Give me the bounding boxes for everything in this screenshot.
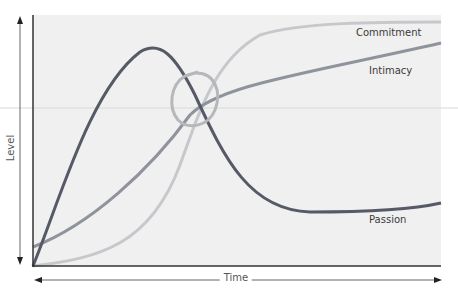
- x-axis-label: Time: [220, 272, 252, 283]
- intimacy-label: Intimacy: [369, 65, 412, 76]
- arrow-down-icon: [17, 257, 23, 265]
- chart-canvas: [0, 0, 458, 301]
- passion-label: Passion: [369, 214, 406, 225]
- y-axis-label: Level: [5, 133, 16, 163]
- arrow-up-icon: [17, 16, 23, 24]
- arrow-left-icon: [34, 277, 42, 283]
- commitment-label: Commitment: [356, 27, 421, 38]
- arrow-right-icon: [434, 277, 442, 283]
